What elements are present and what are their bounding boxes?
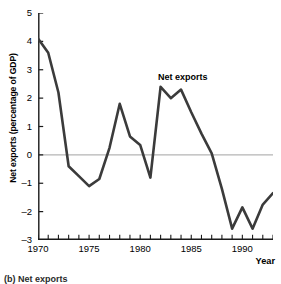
x-tick-label: 1975 bbox=[69, 244, 109, 254]
x-tick-label: 1985 bbox=[171, 244, 211, 254]
x-axis-title: Year bbox=[256, 256, 275, 266]
plot-area bbox=[38, 13, 273, 240]
net-exports-chart-figure: Net exports (percentage of GDP) 543210–1… bbox=[0, 0, 281, 284]
figure-caption: (b) Net exports bbox=[4, 274, 68, 284]
series-annotation-net-exports: Net exports bbox=[158, 72, 208, 82]
chart-svg bbox=[38, 13, 273, 240]
y-axis-title: Net exports (percentage of GDP) bbox=[8, 8, 18, 228]
x-tick-label: 1980 bbox=[120, 244, 160, 254]
x-tick-label: 1990 bbox=[222, 244, 262, 254]
net-exports-data-line bbox=[38, 39, 273, 229]
x-tick-label: 1970 bbox=[18, 244, 58, 254]
